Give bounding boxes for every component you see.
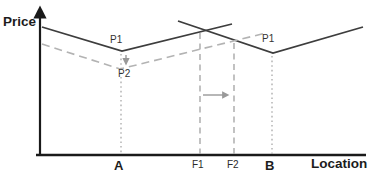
price-label-p1-at-a: P1 — [110, 34, 122, 45]
tick-label-f2: F2 — [227, 159, 239, 170]
figure: { "diagram": { "y_axis_label": "Price", … — [0, 0, 372, 177]
tick-label-f1: F1 — [192, 159, 204, 170]
diagram-stage: Price Location A F1 F2 B P1 P2 P1 — [0, 0, 372, 177]
tick-label-b: B — [265, 158, 274, 173]
tick-label-a: A — [114, 158, 123, 173]
x-axis-label: Location — [311, 156, 367, 171]
price-label-p1-at-b: P1 — [262, 33, 274, 44]
price-schedule-a-p1 — [42, 24, 232, 51]
diagram-canvas — [0, 0, 372, 177]
price-label-p2-at-a: P2 — [118, 68, 130, 79]
y-axis-label: Price — [3, 14, 36, 29]
